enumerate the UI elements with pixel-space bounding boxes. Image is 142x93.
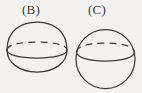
figure-canvas: (B) (C) bbox=[0, 0, 142, 93]
shape-c-equator-front-arc bbox=[77, 52, 135, 61]
shape-c-drawing bbox=[0, 0, 142, 93]
shape-c-equator-back-arc bbox=[77, 43, 135, 52]
